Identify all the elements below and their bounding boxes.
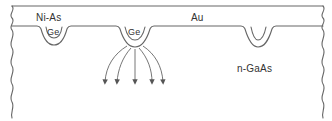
label-au: Au <box>191 12 204 23</box>
right-break-edge <box>322 6 324 118</box>
label-ge-left: Ge <box>47 27 59 37</box>
left-break-edge <box>11 6 13 118</box>
arrow-5 <box>143 46 163 82</box>
label-ge-middle: Ge <box>128 27 140 37</box>
current-arrows <box>105 46 163 82</box>
label-n-gaas: n-GaAs <box>237 63 272 74</box>
label-ni-as: Ni-As <box>36 12 61 23</box>
pocket-right-inner <box>251 27 266 40</box>
arrow-2 <box>117 48 131 82</box>
arrow-1 <box>105 46 127 82</box>
arrow-4 <box>139 48 152 82</box>
